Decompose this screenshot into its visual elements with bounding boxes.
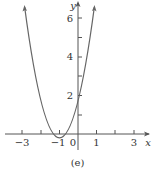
x-tick-label-minus3: −3 (15, 137, 30, 148)
x-axis-label: x (145, 137, 151, 148)
parabola-chart: −3 −1 0 1 3 x 2 4 6 y (0, 0, 155, 173)
parabola-curve (25, 7, 95, 138)
x-tick-label-3: 3 (131, 137, 137, 148)
x-tick-label-1: 1 (93, 137, 99, 148)
origin-label: 0 (70, 137, 76, 148)
y-tick-label-2: 2 (67, 90, 73, 101)
y-axis-label: y (69, 0, 76, 11)
y-tick-label-4: 4 (67, 51, 73, 62)
y-tick-label-6: 6 (67, 13, 73, 24)
x-tick-label-minus1: −1 (51, 137, 66, 148)
figure-caption: (e) (0, 157, 155, 168)
